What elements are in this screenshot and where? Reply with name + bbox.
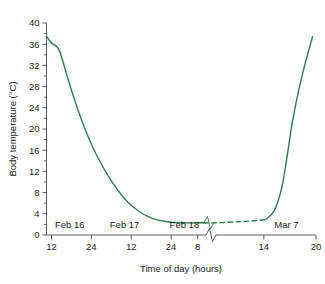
body-temperature-chart: 0481216202428323640 1224122481420 Body t…: [0, 0, 325, 284]
y-tick-label-12: 12: [29, 166, 40, 177]
y-tick-label-36: 36: [29, 39, 40, 50]
data-line-dashed-break: [204, 220, 266, 223]
x-tick-label-3: 24: [166, 241, 177, 252]
x-axis-break-zigzag: [206, 229, 216, 242]
y-axis-ticks: 0481216202428323640: [29, 17, 47, 240]
date-label-feb-17: Feb 17: [110, 219, 140, 230]
date-label-feb-18: Feb 18: [170, 219, 200, 230]
data-line-pre-break: [47, 36, 207, 223]
y-tick-label-16: 16: [29, 145, 40, 156]
y-tick-label-0: 0: [34, 229, 39, 240]
date-label-feb-16: Feb 16: [55, 219, 85, 230]
x-tick-label-1: 24: [86, 241, 97, 252]
y-tick-label-40: 40: [29, 17, 40, 28]
x-axis-title: Time of day (hours): [140, 263, 222, 274]
y-tick-label-32: 32: [29, 60, 40, 71]
x-axis-ticks: 1224122481420: [46, 235, 321, 252]
x-tick-label-0: 12: [46, 241, 57, 252]
y-tick-label-8: 8: [34, 187, 39, 198]
y-axis-title: Body temperature (°C): [7, 81, 18, 176]
y-tick-label-28: 28: [29, 81, 40, 92]
chart-canvas: 0481216202428323640 1224122481420 Body t…: [0, 0, 325, 284]
date-label-mar-7: Mar 7: [274, 219, 298, 230]
y-tick-label-4: 4: [34, 208, 39, 219]
data-line-post-break: [266, 37, 313, 220]
y-tick-label-24: 24: [29, 102, 40, 113]
x-tick-label-6: 20: [311, 241, 322, 252]
y-tick-label-20: 20: [29, 123, 40, 134]
x-tick-label-4: 8: [195, 241, 200, 252]
x-tick-label-2: 12: [126, 241, 137, 252]
x-tick-label-5: 14: [259, 241, 270, 252]
